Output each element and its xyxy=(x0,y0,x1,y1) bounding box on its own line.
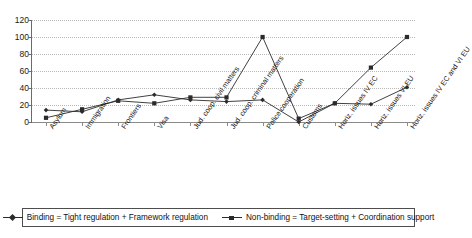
y-tick-label-60: 60 xyxy=(3,67,29,75)
legend-label-non-binding: Non-binding = Target-setting + Coordinat… xyxy=(246,213,434,222)
data-point-s1-10 xyxy=(405,35,409,39)
legend-item-binding: Binding = Tight regulation + Framework r… xyxy=(3,213,208,222)
x-axis-labels: AsylumImmigrationFrontiersVisaJud. coop.… xyxy=(0,124,435,200)
data-point-s1-6 xyxy=(261,35,265,39)
legend-label-binding: Binding = Tight regulation + Framework r… xyxy=(27,213,208,222)
data-point-s1-8 xyxy=(333,101,337,105)
data-point-s1-1 xyxy=(80,107,84,111)
y-tick-label-80: 80 xyxy=(3,50,29,58)
data-point-s1-0 xyxy=(44,116,48,120)
data-point-s0-3 xyxy=(152,93,157,98)
data-point-s1-2 xyxy=(116,99,120,103)
data-point-s0-9 xyxy=(369,102,374,107)
data-point-s1-5 xyxy=(224,95,228,99)
diamond-marker-icon xyxy=(3,214,23,222)
data-point-s0-6 xyxy=(260,98,265,103)
y-tick-label-100: 100 xyxy=(3,33,29,41)
data-point-s1-7 xyxy=(297,117,301,121)
square-marker-icon xyxy=(222,214,242,222)
data-point-s1-9 xyxy=(369,66,373,70)
y-axis-labels: 020406080100120 xyxy=(0,20,29,122)
legend-item-non-binding: Non-binding = Target-setting + Coordinat… xyxy=(222,213,434,222)
y-tick-label-20: 20 xyxy=(3,101,29,109)
chart-legend: Binding = Tight regulation + Framework r… xyxy=(22,208,415,227)
x-tick-label-10: Horiz. issues IV EC and VI EU xyxy=(409,46,472,131)
data-point-s0-5 xyxy=(224,99,229,104)
y-tick-0 xyxy=(28,122,32,123)
data-point-s1-4 xyxy=(188,95,192,99)
data-point-s0-0 xyxy=(44,108,49,113)
y-tick-label-120: 120 xyxy=(3,16,29,24)
data-point-s1-3 xyxy=(152,101,156,105)
y-tick-label-40: 40 xyxy=(3,84,29,92)
